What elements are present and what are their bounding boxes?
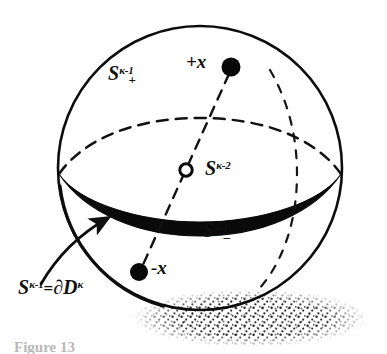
point-minus-x-dot: [130, 263, 148, 281]
label-upper-hemisphere: Sκ-1+: [108, 63, 136, 86]
label-lower-hemisphere-base: S: [203, 219, 214, 241]
label-boundary-equals: =: [44, 279, 54, 298]
partial-icon: ∂: [53, 276, 63, 298]
label-point-plus-x: +x: [186, 52, 206, 71]
label-sphere-boundary: Sκ-1=∂Dκ: [18, 277, 83, 297]
label-boundary-disk: D: [63, 276, 77, 298]
label-lower-hemisphere-sub: –: [224, 229, 231, 244]
figure-caption: Figure 13: [14, 340, 75, 354]
label-point-minus-x: -x: [151, 258, 167, 277]
label-equator-base: S: [205, 157, 216, 179]
label-upper-hemisphere-base: S: [108, 62, 119, 84]
point-plus-x-dot: [222, 58, 241, 77]
label-boundary-disk-sup: κ: [78, 278, 84, 290]
label-equator: Sκ-2: [205, 158, 231, 178]
figure-container: Sκ-1+ Sκ-2 Sκ-1– Sκ-1=∂Dκ +x -x Figure 1…: [0, 0, 387, 354]
center-open-point: [180, 164, 192, 176]
label-lower-hemisphere: Sκ-1–: [203, 220, 230, 243]
label-boundary-sup: κ-1: [29, 278, 43, 290]
label-equator-sup: κ-2: [216, 159, 230, 171]
label-upper-hemisphere-sub: +: [129, 72, 136, 87]
label-boundary-base: S: [18, 276, 29, 298]
